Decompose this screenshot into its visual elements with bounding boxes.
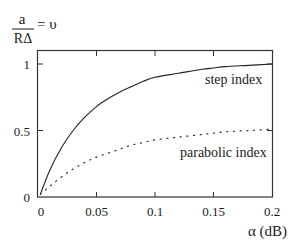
y-tick-label: 0 — [24, 190, 31, 205]
y-label-denominator: RΔ — [14, 31, 32, 46]
y-axis-label: a RΔ = υ — [12, 11, 57, 46]
x-tick-label: 0.05 — [85, 204, 108, 219]
x-axis-label: α (dB) — [248, 223, 287, 240]
y-label-suffix: = υ — [37, 16, 57, 32]
y-tick-label: 0.5 — [14, 124, 30, 139]
x-tick-label: 0.1 — [147, 204, 163, 219]
parabolic-index-label: parabolic index — [180, 145, 267, 160]
x-tick-label: 0.15 — [202, 204, 225, 219]
y-tick-label: 1 — [24, 57, 31, 72]
step-index-label: step index — [205, 72, 262, 87]
parabolic-index-curve — [40, 129, 272, 194]
x-tick-label: 0.2 — [264, 204, 280, 219]
x-tick-label: 0 — [38, 204, 45, 219]
y-label-numerator: a — [19, 11, 26, 27]
chart: a RΔ = υ 00.050.10.150.200.51 step index… — [0, 0, 296, 251]
